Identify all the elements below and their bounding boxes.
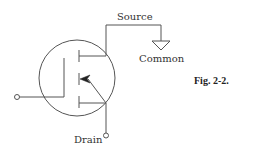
mosfet-schematic: Source Common Drain Fig. 2-2. (0, 0, 253, 156)
source-lead (79, 25, 161, 56)
substrate-line (88, 79, 106, 103)
gate-terminal-icon (15, 95, 20, 100)
ground-icon (152, 41, 170, 50)
common-label: Common (139, 53, 185, 64)
drain-label: Drain (74, 134, 103, 145)
source-label: Source (117, 11, 153, 22)
drain-terminal-icon (104, 133, 109, 138)
drain-lead (79, 103, 109, 138)
figure-caption: Fig. 2-2. (194, 75, 229, 86)
transistor-envelope (39, 40, 115, 116)
